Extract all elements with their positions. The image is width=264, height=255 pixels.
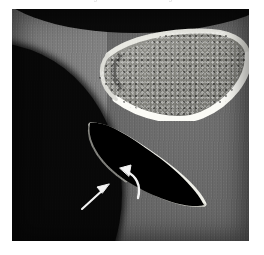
image-vignette [12, 9, 249, 241]
ct-image [12, 9, 249, 241]
figure-caption-remnant: Figure 2. Axial CT image [0, 0, 264, 2]
